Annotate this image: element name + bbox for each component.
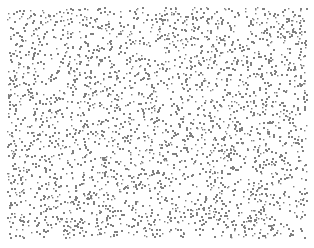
- scatter-points-layer: [0, 0, 314, 248]
- plot-area: [0, 0, 314, 248]
- scatter-plot-figure: [0, 0, 314, 248]
